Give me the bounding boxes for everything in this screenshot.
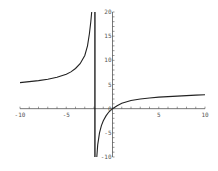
curve-left-branch xyxy=(20,12,92,83)
y-tick-label: 5 xyxy=(108,81,112,88)
x-tick-label: -5 xyxy=(63,111,71,118)
y-tick-label: 0 xyxy=(108,105,112,112)
tick-labels: -10-551020151050-5-10 xyxy=(15,8,209,160)
y-tick-label: 20 xyxy=(104,8,112,15)
axes xyxy=(20,12,205,157)
y-tick-label: 15 xyxy=(104,32,112,39)
function-plot: -10-551020151050-5-10 xyxy=(0,0,218,171)
y-tick-label: -10 xyxy=(101,153,112,160)
y-tick-label: 10 xyxy=(104,56,112,63)
x-tick-label: 5 xyxy=(157,111,161,118)
x-tick-label: -10 xyxy=(15,111,26,118)
y-tick-label: -5 xyxy=(104,129,112,136)
x-tick-label: 10 xyxy=(201,111,209,118)
